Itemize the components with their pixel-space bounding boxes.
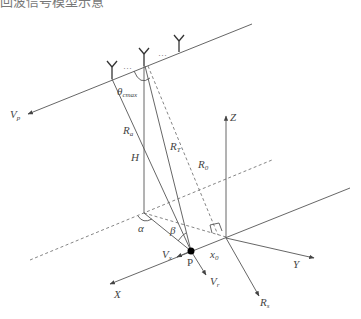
label-vp: Vp: [10, 108, 21, 122]
label-vx: Vx: [162, 248, 173, 262]
sar-geometry-diagram: ··· ··· Vp θcmax Ra RT R0 H Z α β Vx P x…: [0, 0, 361, 319]
ellipsis-2: ···: [158, 50, 167, 60]
rs-axis: [226, 238, 259, 296]
label-theta-cmax: θcmax: [117, 85, 138, 99]
range-rt-line: [145, 66, 191, 251]
target-point-p: [188, 248, 195, 255]
label-vr: Vr: [210, 275, 220, 289]
flight-path-line: [28, 24, 252, 114]
label-rt: RT: [169, 140, 182, 154]
label-p: P: [187, 256, 193, 268]
label-x0: x0: [209, 248, 219, 262]
antenna-icon-1: [107, 61, 117, 79]
right-angle-mark: [210, 223, 222, 233]
x-axis: [110, 188, 350, 284]
y-axis: [226, 238, 314, 258]
alpha-angle-arc: [138, 216, 152, 221]
label-z: Z: [230, 111, 237, 123]
label-beta: β: [169, 224, 176, 236]
ground-range-line: [144, 213, 191, 251]
label-ra: Ra: [122, 124, 134, 138]
label-rs: Rs: [259, 296, 270, 310]
ground-track-dashed: [30, 160, 272, 260]
vr-vector: [191, 251, 206, 275]
label-r0: R0: [197, 158, 209, 172]
ellipsis-1: ···: [123, 63, 132, 73]
label-alpha: α: [138, 222, 144, 234]
label-h: H: [130, 151, 140, 163]
range-ra-line: [112, 79, 191, 251]
antenna-icon-3: [174, 35, 184, 52]
range-r0-line: [148, 66, 218, 235]
label-x: X: [113, 288, 122, 300]
label-y: Y: [293, 258, 301, 270]
antenna-icon-2: [139, 48, 149, 66]
